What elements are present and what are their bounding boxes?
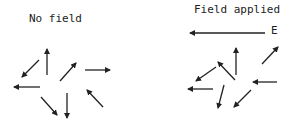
dipole-arrow-icon — [234, 90, 251, 107]
dipole-arrow-icon — [218, 62, 235, 80]
dipole-arrow-icon — [41, 97, 57, 115]
dipole-arrow-icon — [262, 47, 278, 64]
field-applied-dipoles — [188, 47, 278, 108]
no-field-dipoles — [14, 49, 110, 118]
dipole-arrow-icon — [87, 90, 103, 107]
dipole-diagram — [0, 0, 294, 122]
dipole-arrow-icon — [196, 67, 216, 81]
dipole-arrow-icon — [22, 60, 39, 77]
dipole-arrow-icon — [218, 85, 224, 108]
dipole-arrow-icon — [60, 63, 76, 81]
